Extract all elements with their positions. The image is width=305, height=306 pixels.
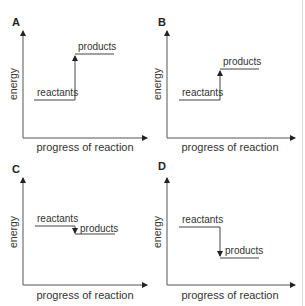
products-label: products: [78, 41, 116, 52]
panel-d: D energy progress of reaction reactants …: [151, 160, 295, 301]
panel-c: C energy progress of reaction reactants …: [7, 163, 147, 301]
y-axis-label: energy: [151, 67, 163, 100]
reactants-label: reactants: [37, 213, 78, 224]
y-axis-label: energy: [151, 215, 163, 248]
panel-b: B energy progress of reaction reactants …: [151, 16, 295, 153]
x-axis-label: progress of reaction: [181, 289, 278, 301]
x-axis-label: progress of reaction: [36, 141, 133, 153]
products-label: products: [225, 245, 263, 256]
panel-label: D: [158, 160, 166, 172]
x-axis-label: progress of reaction: [181, 141, 278, 153]
y-axis-label: energy: [7, 215, 19, 248]
energy-diagrams-figure: A energy progress of reaction reactants …: [0, 0, 305, 306]
y-axis-label: energy: [7, 67, 19, 100]
products-label: products: [223, 56, 261, 67]
reactants-label: reactants: [182, 87, 223, 98]
products-label: products: [80, 223, 118, 234]
panel-label: C: [12, 163, 20, 175]
panel-a: A energy progress of reaction reactants …: [7, 16, 147, 153]
panel-label: B: [158, 16, 166, 28]
reactants-label: reactants: [182, 214, 223, 225]
x-axis-label: progress of reaction: [36, 289, 133, 301]
reactants-label: reactants: [37, 87, 78, 98]
panel-label: A: [12, 16, 20, 28]
